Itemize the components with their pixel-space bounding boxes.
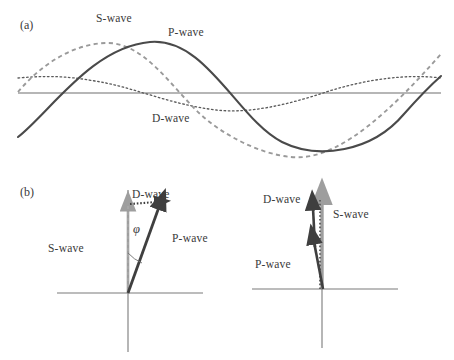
panel-b-left-label-p-wave: P-wave	[172, 232, 208, 244]
wave-figure: (a) (b) S-wave P-wave D-wave D-wave P-wa…	[0, 0, 454, 360]
right-p-wave-vector-upper	[313, 208, 315, 247]
panel-b-left-diagram	[57, 190, 203, 352]
panel-b-left-angle-label: φ	[133, 222, 140, 237]
s-wave-curve	[18, 43, 441, 157]
panel-b-right-label-d-wave: D-wave	[263, 193, 301, 205]
figure-canvas	[0, 0, 454, 360]
panel-b-right-label-s-wave: S-wave	[333, 208, 369, 220]
panel-a-label-d-wave: D-wave	[152, 112, 190, 124]
panel-a-tag: (a)	[20, 18, 33, 33]
panel-b-left-label-d-wave: D-wave	[132, 188, 170, 200]
panel-b-tag: (b)	[20, 185, 34, 200]
panel-b-right-label-p-wave: P-wave	[255, 258, 291, 270]
panel-a-label-p-wave: P-wave	[168, 26, 204, 38]
left-d-wave-vector	[130, 202, 156, 204]
panel-a-plot	[18, 42, 441, 157]
panel-a-label-s-wave: S-wave	[96, 12, 132, 24]
left-p-wave-vector	[128, 207, 159, 293]
panel-b-left-label-s-wave: S-wave	[48, 242, 84, 254]
